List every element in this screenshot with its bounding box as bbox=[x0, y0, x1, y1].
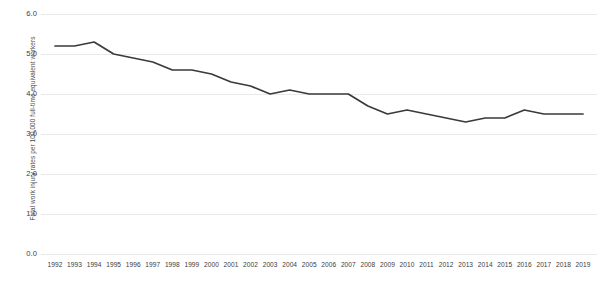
plot-area bbox=[0, 0, 610, 285]
line-series-fatal-work-injury-rate bbox=[55, 42, 583, 122]
chart-container: Fatal work injury rates per 100,000 full… bbox=[0, 0, 610, 285]
